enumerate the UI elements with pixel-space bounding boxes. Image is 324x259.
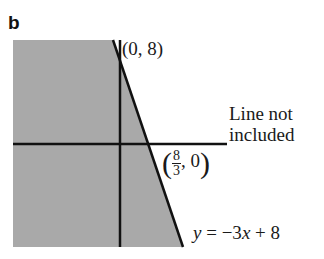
fraction: 83	[172, 149, 181, 178]
x-intercept-label: (83, 0)	[162, 146, 210, 180]
x-intercept-rest: , 0	[181, 150, 200, 171]
eq-middle: = −3	[201, 222, 241, 243]
open-paren: (	[162, 146, 172, 179]
note-line-2: included	[229, 124, 294, 145]
fraction-denominator: 3	[172, 164, 181, 178]
close-paren: )	[200, 146, 210, 179]
fraction-numerator: 8	[172, 149, 181, 164]
line-note: Line not included	[229, 103, 294, 145]
y-intercept-label: (0, 8)	[122, 38, 163, 60]
equation-label: y = −3x + 8	[193, 222, 280, 244]
note-line-1: Line not	[229, 103, 294, 124]
eq-rest: + 8	[250, 222, 280, 243]
